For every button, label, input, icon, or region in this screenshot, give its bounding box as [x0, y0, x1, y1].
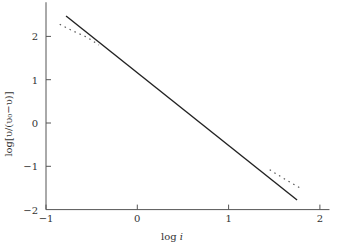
x-tick-label: 0	[134, 213, 140, 224]
y-tick-label: 2	[32, 31, 38, 42]
x-tick-label: −1	[39, 213, 54, 224]
series	[60, 16, 302, 200]
dotted-data-line	[270, 170, 302, 189]
x-tick-label: 1	[225, 213, 231, 224]
y-tick-label: 1	[32, 75, 38, 86]
chart: −1012−2−1012 log i log[υ/(υ₀−υ)]	[0, 0, 342, 250]
x-axis-label: log i	[161, 231, 183, 242]
y-tick-label: −2	[23, 205, 38, 216]
y-axis-label: log[υ/(υ₀−υ)]	[3, 91, 14, 156]
y-tick-label: −1	[23, 161, 38, 172]
ticks: −1012−2−1012	[23, 31, 323, 223]
solid-fit-line	[66, 16, 297, 200]
x-tick-label: 2	[317, 213, 323, 224]
y-tick-label: 0	[32, 118, 38, 129]
